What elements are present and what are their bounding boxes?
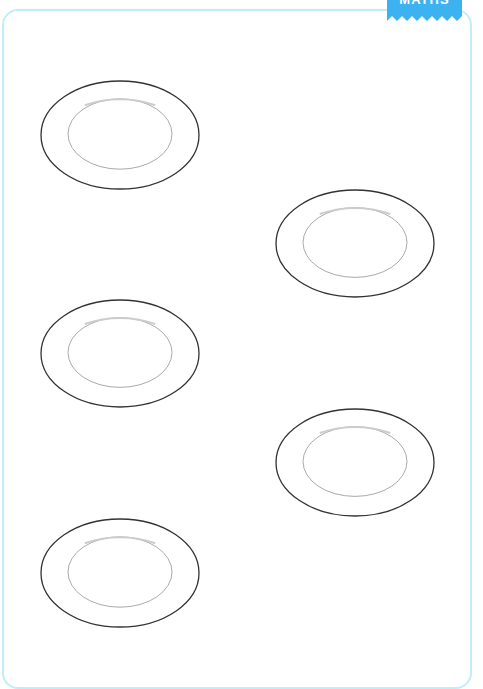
plate-4 [275,408,435,517]
worksheet-tab: MATHS [387,0,462,22]
plate-icon [40,299,200,408]
plate-icon [275,189,435,298]
plate-icon [275,408,435,517]
plate-icon [40,518,200,628]
tab-label: MATHS [387,0,462,7]
plate-2 [275,189,435,298]
plate-icon [40,80,200,190]
plate-3 [40,299,200,408]
plate-1 [40,80,200,190]
plate-5 [40,518,200,628]
